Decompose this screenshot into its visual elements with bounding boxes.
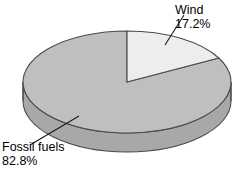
label-wind: Wind 17.2% [175, 3, 210, 31]
pie-chart-figure: Wind 17.2% Fossil fuels 82.8% [0, 0, 239, 179]
label-wind-percent: 17.2% [175, 17, 210, 31]
label-fossil-fuels: Fossil fuels 82.8% [2, 140, 65, 168]
label-fossil-fuels-percent: 82.8% [2, 154, 65, 168]
label-fossil-fuels-name: Fossil fuels [2, 140, 65, 154]
label-wind-name: Wind [175, 3, 210, 17]
